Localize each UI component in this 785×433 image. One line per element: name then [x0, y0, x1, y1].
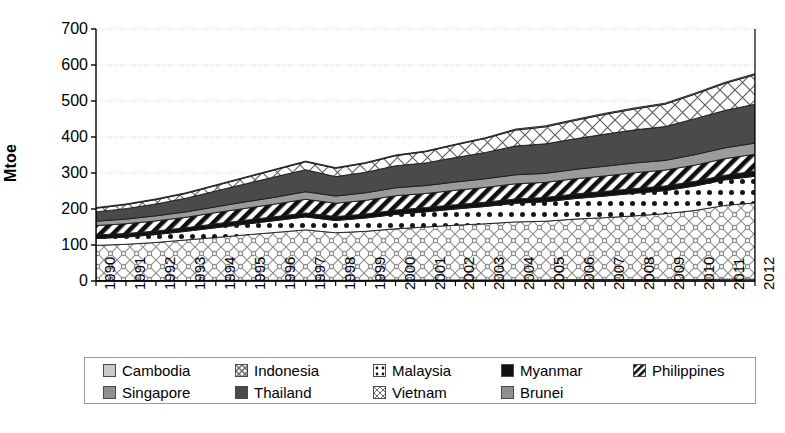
legend-label: Vietnam	[392, 385, 447, 400]
legend-swatch-solid-light-gray-icon	[103, 364, 116, 377]
legend-label: Cambodia	[122, 363, 190, 378]
x-tick-label: 1993	[192, 257, 207, 290]
legend-item-malaysia[interactable]: Malaysia	[373, 359, 451, 382]
x-tick-label: 2004	[521, 257, 536, 290]
legend-swatch-solid-black-icon	[501, 364, 514, 377]
x-tick-label: 2010	[701, 257, 716, 290]
legend-item-indonesia[interactable]: Indonesia	[235, 359, 319, 382]
x-tick-label: 1998	[342, 257, 357, 290]
x-tick-label: 2008	[641, 257, 656, 290]
x-tick-label: 1999	[372, 257, 387, 290]
x-tick-label: 2005	[551, 257, 566, 290]
legend-swatch-solid-dark-gray-icon	[235, 386, 248, 399]
x-tick-label: 2006	[581, 257, 596, 290]
legend-label: Malaysia	[392, 363, 451, 378]
legend-swatch-solid-gray-icon	[501, 386, 514, 399]
legend-label: Philippines	[652, 363, 725, 378]
legend-row-2: SingaporeThailandVietnamBrunei	[85, 381, 755, 404]
x-tick-label: 2002	[461, 257, 476, 290]
x-tick-label: 2007	[611, 257, 626, 290]
x-tick-label: 2000	[402, 257, 417, 290]
x-tick-label: 1992	[162, 257, 177, 290]
x-tick-label: 1990	[102, 257, 117, 290]
legend-swatch-x-crosshatch-icon	[373, 386, 386, 399]
legend-item-philippines[interactable]: Philippines	[633, 359, 725, 382]
legend-swatch-solid-gray-icon	[103, 386, 116, 399]
x-tick-label: 1996	[282, 257, 297, 290]
legend-label: Indonesia	[254, 363, 319, 378]
legend-label: Brunei	[520, 385, 563, 400]
legend-item-vietnam[interactable]: Vietnam	[373, 381, 447, 404]
legend-label: Thailand	[254, 385, 312, 400]
x-tick-label: 1997	[312, 257, 327, 290]
legend-item-cambodia[interactable]: Cambodia	[103, 359, 190, 382]
x-tick-label: 1995	[252, 257, 267, 290]
legend-label: Myanmar	[520, 363, 583, 378]
x-tick-label: 2003	[491, 257, 506, 290]
legend-item-brunei[interactable]: Brunei	[501, 381, 563, 404]
legend-swatch-circle-crosshatch-icon	[235, 364, 248, 377]
x-tick-label: 2011	[731, 258, 746, 290]
legend-swatch-diagonal-stripe-icon	[633, 364, 646, 377]
legend-row-1: CambodiaIndonesiaMalaysiaMyanmarPhilippi…	[85, 359, 755, 382]
legend-item-thailand[interactable]: Thailand	[235, 381, 312, 404]
legend-label: Singapore	[122, 385, 190, 400]
legend-item-myanmar[interactable]: Myanmar	[501, 359, 583, 382]
x-tick-label: 1991	[132, 257, 147, 290]
x-tick-label: 1994	[222, 257, 237, 290]
chart-legend: CambodiaIndonesiaMalaysiaMyanmarPhilippi…	[84, 357, 756, 404]
x-tick-label: 2001	[432, 257, 447, 290]
legend-item-singapore[interactable]: Singapore	[103, 381, 190, 404]
legend-swatch-dotted-icon	[373, 364, 386, 377]
chart-figure: Mtoe 7006005004003002001000 199019911992…	[0, 0, 785, 433]
x-tick-label: 2009	[671, 257, 686, 290]
x-tick-label: 2012	[761, 257, 776, 290]
